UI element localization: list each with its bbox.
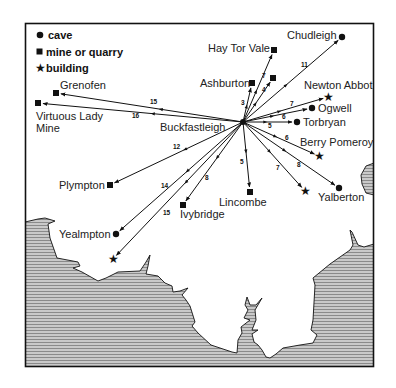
buckfastleigh-hub-marker	[240, 119, 246, 125]
site-label: Grenofen	[60, 79, 106, 91]
distance-label: 5	[240, 158, 244, 165]
site-label: Hay Tor Vale	[208, 42, 270, 54]
site-label: Plympton	[59, 179, 105, 191]
return-arrow-icon	[273, 134, 278, 139]
distance-label: 5	[268, 122, 272, 129]
distance-label: 12	[173, 143, 181, 150]
distance-label: 15	[150, 98, 158, 105]
legend-mine-label: mine or quarry	[46, 46, 124, 58]
distance-label: 7	[276, 164, 280, 171]
distance-label: 15	[163, 209, 171, 216]
building-star-icon: ★	[35, 61, 46, 75]
south-coast-sea	[25, 218, 374, 367]
distance-label: 16	[132, 112, 140, 119]
cave-icon	[339, 34, 345, 40]
site-label: Ashburton	[200, 77, 250, 89]
mine-icon	[271, 47, 277, 53]
site-label: Berry Pomeroy	[300, 136, 374, 148]
legend-building-label: building	[46, 62, 89, 74]
route-line	[243, 122, 250, 187]
mine-icon	[35, 100, 41, 106]
cave-icon	[113, 231, 119, 237]
mine-icon	[37, 49, 43, 55]
site-label: Newton Abbot	[304, 79, 373, 91]
cave-icon	[309, 105, 315, 111]
return-arrow-icon	[151, 112, 155, 116]
legend: cave mine or quarry ★ building	[35, 29, 124, 75]
site-label: Yealmpton	[59, 228, 111, 240]
mine-icon	[53, 90, 59, 96]
distance-label: 14	[161, 182, 169, 189]
map-canvas: cave mine or quarry ★ building ★★★★ Chud…	[0, 0, 396, 388]
distance-label: 4	[262, 86, 266, 93]
mine-icon	[107, 182, 113, 188]
site-label-line2: Mine	[36, 122, 60, 134]
hub-label: Buckfastleigh	[160, 121, 225, 133]
route-line	[186, 122, 243, 201]
return-arrow-icon	[244, 149, 248, 153]
distance-label: 7	[290, 100, 294, 107]
site-label: Virtuous Lady	[36, 110, 104, 122]
mine-icon	[247, 189, 253, 195]
distance-label: 3	[241, 99, 245, 106]
return-arrow-icon	[183, 147, 188, 152]
site-label: Chudleigh	[287, 29, 337, 41]
route-line	[243, 122, 302, 187]
distance-label: 6	[282, 113, 286, 120]
site-label: Torbryan	[303, 116, 346, 128]
site-labels: ChudleighHay Tor ValeAshburtonNewton Abb…	[36, 29, 374, 240]
cave-icon	[294, 119, 300, 125]
return-arrow-icon	[263, 120, 267, 123]
site-label: Lincombe	[219, 196, 267, 208]
building-star-icon: ★	[108, 252, 119, 266]
building-star-icon: ★	[300, 184, 311, 198]
return-arrow-icon	[254, 89, 259, 94]
distance-label: 8	[297, 161, 301, 168]
building-star-icon: ★	[314, 149, 325, 163]
cave-icon	[37, 32, 44, 39]
mine-icon	[270, 75, 276, 81]
legend-cave-label: cave	[48, 29, 72, 41]
distance-label: 6	[285, 134, 289, 141]
site-label: Ogwell	[318, 102, 352, 114]
route-line	[116, 122, 243, 255]
distance-label: 11	[301, 61, 308, 68]
site-label: Ivybridge	[180, 208, 225, 220]
distance-label: 8	[205, 174, 209, 181]
site-label: Yalberton	[318, 191, 364, 203]
distance-label: 7	[262, 72, 266, 79]
